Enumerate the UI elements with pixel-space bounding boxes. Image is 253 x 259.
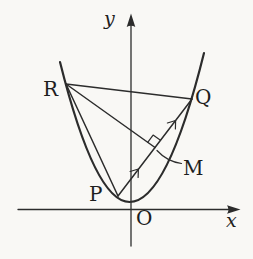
x-axis-label: x (226, 209, 237, 231)
parabola-curve (60, 53, 204, 202)
diagram-canvas: y x O R Q P M (0, 0, 253, 259)
y-axis-arrow-icon (127, 14, 136, 28)
chord-RP (66, 84, 118, 196)
y-axis-label: y (103, 7, 115, 29)
parabola-diagram: y x O R Q P M (0, 0, 253, 259)
point-label-R: R (43, 77, 59, 101)
chord-PQ (118, 99, 192, 196)
point-label-M: M (183, 156, 203, 180)
right-angle-mark (148, 135, 161, 142)
origin-label: O (136, 206, 152, 230)
point-label-P: P (89, 182, 102, 206)
point-label-Q: Q (195, 85, 211, 109)
